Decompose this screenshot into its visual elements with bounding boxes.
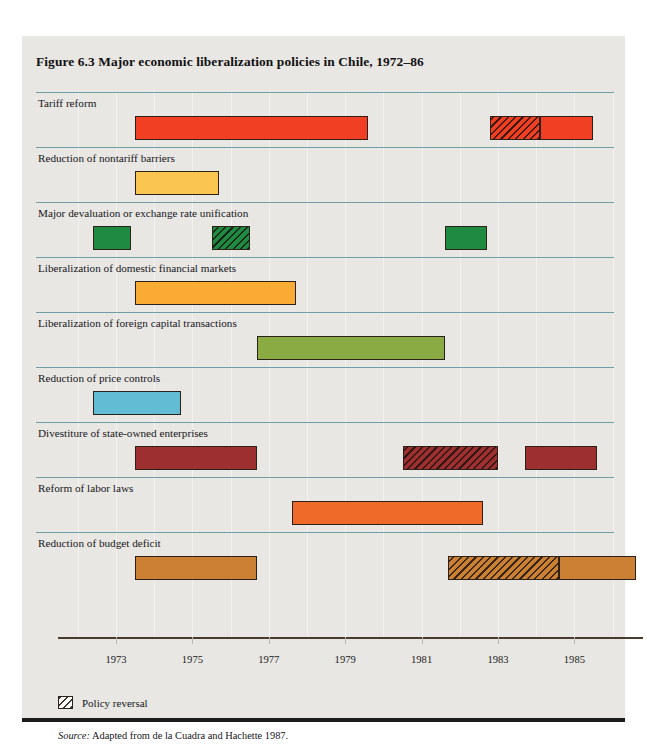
x-axis-tick <box>574 637 575 644</box>
bottom-rule <box>22 718 625 722</box>
x-axis-tick <box>422 637 423 644</box>
timeline-row: Liberalization of foreign capital transa… <box>22 312 625 367</box>
timeline-row: Reduction of budget deficit <box>22 532 625 587</box>
x-axis-tick-label: 1975 <box>182 654 203 665</box>
timeline-bar <box>540 116 593 140</box>
row-label: Divestiture of state-owned enterprises <box>38 427 208 439</box>
timeline-row: Reform of labor laws <box>22 477 625 532</box>
legend-label-policy-reversal: Policy reversal <box>82 697 148 709</box>
row-label: Reduction of price controls <box>38 372 160 384</box>
row-label: Liberalization of foreign capital transa… <box>38 317 237 329</box>
timeline-bar <box>559 556 635 580</box>
timeline-row: Reduction of price controls <box>22 367 625 422</box>
timeline-bar <box>292 501 483 525</box>
timeline-bar <box>135 556 257 580</box>
figure-panel: Figure 6.3 Major economic liberalization… <box>22 36 625 722</box>
x-axis-tick-label: 1979 <box>335 654 356 665</box>
timeline-bar <box>135 281 295 305</box>
timeline-bar <box>135 446 257 470</box>
timeline-bar-reversal <box>490 116 540 140</box>
row-divider <box>36 532 614 533</box>
policy-reversal-hatch-icon <box>58 696 73 709</box>
timeline-bar-reversal <box>448 556 559 580</box>
x-axis-tick-label: 1985 <box>564 654 585 665</box>
timeline-row: Major devaluation or exchange rate unifi… <box>22 202 625 257</box>
x-axis-tick-label: 1983 <box>487 654 508 665</box>
x-axis-tick-label: 1977 <box>258 654 279 665</box>
timeline-row: Liberalization of domestic financial mar… <box>22 257 625 312</box>
row-divider <box>36 202 614 203</box>
timeline-row: Divestiture of state-owned enterprises <box>22 422 625 477</box>
source-label: Source: <box>58 730 90 741</box>
row-divider <box>36 477 614 478</box>
timeline-row: Reduction of nontariff barriers <box>22 147 625 202</box>
row-label: Liberalization of domestic financial mar… <box>38 262 236 274</box>
row-label: Reduction of nontariff barriers <box>38 152 175 164</box>
source-text: Adapted from de la Cuadra and Hachette 1… <box>90 730 288 741</box>
row-label: Tariff reform <box>38 97 96 109</box>
page-title: Figure 6.3 Major economic liberalization… <box>36 54 424 70</box>
timeline-bar <box>257 336 444 360</box>
timeline-bar <box>93 226 131 250</box>
legend: Policy reversal <box>58 696 148 709</box>
row-divider <box>36 92 614 93</box>
row-divider <box>36 312 614 313</box>
timeline-bar <box>93 391 181 415</box>
source-note: Source: Adapted from de la Cuadra and Ha… <box>58 730 288 741</box>
row-label: Reform of labor laws <box>38 482 133 494</box>
x-axis-tick <box>269 637 270 644</box>
timeline-bar <box>445 226 487 250</box>
x-axis-tick <box>116 637 117 644</box>
timeline-row: Tariff reform <box>22 92 625 147</box>
timeline-bar <box>525 446 598 470</box>
timeline-bar-reversal <box>212 226 250 250</box>
row-divider <box>36 422 614 423</box>
row-label: Reduction of budget deficit <box>38 537 161 549</box>
timeline-chart-plot: Tariff reformReduction of nontariff barr… <box>22 92 625 637</box>
x-axis-tick-label: 1981 <box>411 654 432 665</box>
x-axis-tick-label: 1973 <box>105 654 126 665</box>
timeline-bar-reversal <box>403 446 499 470</box>
x-axis-tick <box>192 637 193 644</box>
x-axis-line <box>58 637 643 639</box>
timeline-bar <box>135 116 368 140</box>
row-divider <box>36 257 614 258</box>
row-divider <box>36 147 614 148</box>
row-divider <box>36 367 614 368</box>
timeline-bar <box>135 171 219 195</box>
x-axis-tick <box>345 637 346 644</box>
row-label: Major devaluation or exchange rate unifi… <box>38 207 248 219</box>
x-axis-tick <box>498 637 499 644</box>
